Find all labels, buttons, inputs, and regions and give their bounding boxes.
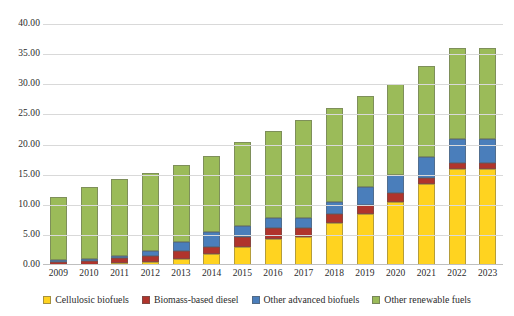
bar-segment[interactable] [81, 187, 98, 259]
bar-stack[interactable] [111, 179, 128, 265]
x-axis-tick-label: 2011 [104, 267, 135, 279]
legend-item[interactable]: Cellulosic biofuels [43, 295, 129, 305]
bar-stack[interactable] [50, 197, 67, 265]
x-axis-tick-label: 2020 [380, 267, 411, 279]
x-axis-tick-label: 2009 [43, 267, 74, 279]
legend-label: Biomass-based diesel [154, 295, 239, 305]
x-axis-tick-label: 2021 [411, 267, 442, 279]
bar-segment[interactable] [173, 242, 190, 251]
bar-segment[interactable] [111, 179, 128, 256]
bar-segment[interactable] [265, 239, 282, 265]
bar-segment[interactable] [142, 173, 159, 251]
legend-item[interactable]: Biomass-based diesel [142, 295, 239, 305]
y-gridline [43, 205, 503, 206]
x-axis-tick-label: 2013 [166, 267, 197, 279]
y-gridline [43, 24, 503, 25]
bar-segment[interactable] [357, 214, 374, 265]
y-axis-labels: 0.005.0010.0015.0020.0025.0030.0035.0040… [0, 24, 40, 265]
y-gridline [43, 145, 503, 146]
legend-swatch-icon [142, 296, 150, 304]
bar-segment[interactable] [449, 169, 466, 265]
y-axis-tick-label: 15.00 [0, 170, 40, 180]
x-axis-tick-label: 2018 [319, 267, 350, 279]
plot-area [43, 24, 503, 265]
bar-stack[interactable] [265, 131, 282, 265]
y-gridline [43, 54, 503, 55]
bar-segment[interactable] [387, 202, 404, 265]
legend-label: Other renewable fuels [384, 295, 471, 305]
bar-segment[interactable] [326, 108, 343, 201]
x-axis-tick-label: 2017 [288, 267, 319, 279]
bar-segment[interactable] [479, 48, 496, 138]
legend-item[interactable]: Other renewable fuels [372, 295, 471, 305]
y-axis-tick-label: 30.00 [0, 80, 40, 90]
legend-label: Cellulosic biofuels [55, 295, 129, 305]
x-axis-baseline [43, 264, 503, 265]
bar-segment[interactable] [295, 228, 312, 237]
legend-item[interactable]: Other advanced biofuels [252, 295, 360, 305]
bar-segment[interactable] [387, 175, 404, 193]
legend-swatch-icon [43, 296, 51, 304]
chart-legend: Cellulosic biofuelsBiomass-based dieselO… [0, 292, 514, 308]
y-axis-tick-label: 10.00 [0, 200, 40, 210]
bar-segment[interactable] [449, 48, 466, 138]
bar-segment[interactable] [387, 193, 404, 202]
x-axis-tick-label: 2010 [74, 267, 105, 279]
bar-segment[interactable] [326, 223, 343, 265]
bar-segment[interactable] [203, 156, 220, 233]
x-axis-tick-label: 2022 [442, 267, 473, 279]
cropped-title-remnant [0, 0, 514, 10]
bar-segment[interactable] [479, 139, 496, 163]
bar-stack[interactable] [357, 96, 374, 265]
x-axis-tick-label: 2014 [196, 267, 227, 279]
x-axis-tick-label: 2015 [227, 267, 258, 279]
chart-container: 0.005.0010.0015.0020.0025.0030.0035.0040… [0, 0, 514, 316]
y-axis-tick-label: 25.00 [0, 110, 40, 120]
bar-segment[interactable] [234, 142, 251, 226]
bar-stack[interactable] [295, 120, 312, 265]
bar-segment[interactable] [265, 228, 282, 239]
legend-swatch-icon [372, 296, 380, 304]
bar-segment[interactable] [387, 84, 404, 174]
y-axis-tick-label: 0.00 [0, 260, 40, 270]
x-axis-tick-label: 2016 [258, 267, 289, 279]
bar-stack[interactable] [234, 142, 251, 265]
bar-segment[interactable] [357, 96, 374, 186]
bar-stack[interactable] [449, 48, 466, 265]
y-axis-tick-label: 35.00 [0, 49, 40, 59]
x-axis-labels: 2009201020112012201320142015201620172018… [43, 267, 503, 281]
bar-segment[interactable] [479, 169, 496, 265]
bar-stack[interactable] [479, 48, 496, 265]
legend-swatch-icon [252, 296, 260, 304]
bar-segment[interactable] [418, 66, 435, 156]
bar-stack[interactable] [173, 165, 190, 265]
y-gridline [43, 84, 503, 85]
bar-stack[interactable] [81, 187, 98, 265]
y-gridline [43, 114, 503, 115]
bar-stack[interactable] [203, 156, 220, 265]
x-axis-tick-label: 2019 [350, 267, 381, 279]
bar-segment[interactable] [295, 218, 312, 228]
bar-segment[interactable] [265, 218, 282, 228]
y-axis-tick-label: 5.00 [0, 230, 40, 240]
bar-segment[interactable] [357, 187, 374, 205]
bar-segment[interactable] [449, 139, 466, 163]
bar-segment[interactable] [234, 237, 251, 247]
bar-segment[interactable] [326, 214, 343, 223]
bar-stack[interactable] [326, 108, 343, 265]
y-gridline [43, 175, 503, 176]
bar-segment[interactable] [173, 251, 190, 259]
bar-segment[interactable] [326, 202, 343, 214]
bar-segment[interactable] [50, 197, 67, 260]
bar-segment[interactable] [203, 247, 220, 255]
legend-label: Other advanced biofuels [264, 295, 360, 305]
x-axis-tick-label: 2012 [135, 267, 166, 279]
bar-segment[interactable] [418, 184, 435, 265]
bar-stack[interactable] [142, 173, 159, 265]
bar-segment[interactable] [357, 205, 374, 214]
y-axis-tick-label: 20.00 [0, 140, 40, 150]
bar-segment[interactable] [295, 120, 312, 218]
x-axis-tick-label: 2023 [472, 267, 503, 279]
bar-segment[interactable] [234, 247, 251, 265]
bar-segment[interactable] [295, 237, 312, 265]
